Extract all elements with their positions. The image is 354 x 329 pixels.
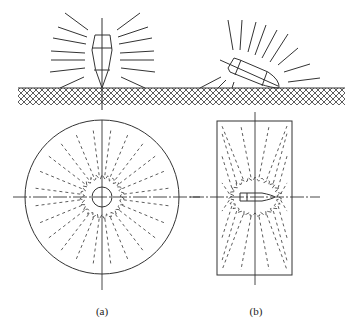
panel-label-a: (a) (96, 305, 108, 317)
projectile-b (220, 58, 279, 88)
radial-cracks-b (222, 126, 287, 270)
plan-view-b (190, 112, 320, 285)
panel-label-b: (b) (250, 305, 263, 317)
plan-view-a (13, 120, 200, 290)
diagram-canvas (0, 0, 354, 329)
ground-surface (18, 88, 345, 105)
